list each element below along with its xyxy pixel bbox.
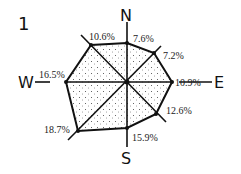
wind-rose-polygon (66, 43, 172, 131)
value-nw: 10.6% (89, 31, 115, 42)
value-ne: 7.2% (163, 50, 184, 61)
value-s: 15.9% (132, 132, 158, 143)
value-w: 16.5% (39, 69, 65, 80)
south-label: S (121, 149, 131, 168)
value-se: 12.6% (166, 105, 192, 116)
north-label: N (120, 6, 132, 25)
value-sw: 18.7% (44, 124, 70, 135)
figure-number: 1 (18, 13, 29, 34)
west-label: W (18, 73, 34, 92)
east-label: E (214, 73, 224, 92)
wind-rose-diagram: 1 N E S W 7.6% 7.2% 10.9% 12.6% 15.9% 18… (0, 0, 241, 174)
value-n: 7.6% (133, 33, 154, 44)
value-e: 10.9% (175, 77, 201, 88)
